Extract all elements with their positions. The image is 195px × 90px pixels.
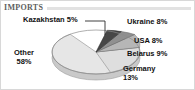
- imports-pie-chart-figure: IMPORTS: [0, 0, 195, 90]
- pie-label-ukraine: Ukraine 8%: [127, 18, 167, 27]
- page-title: IMPORTS: [4, 3, 43, 12]
- pie-label-usa: USA 8%: [134, 37, 162, 46]
- pie-label-germany-value: 13%: [123, 74, 156, 83]
- chart-header: IMPORTS: [4, 2, 191, 13]
- pie-label-belarus: Belarus 9%: [127, 50, 167, 59]
- pie-label-other-value: 58%: [14, 58, 34, 67]
- pie-label-other: Other 58%: [14, 49, 34, 66]
- pie-label-kazakhstan: Kazakhstan 5%: [23, 16, 78, 25]
- pie-label-germany: Germany 13%: [123, 65, 156, 82]
- header-divider: [47, 7, 191, 10]
